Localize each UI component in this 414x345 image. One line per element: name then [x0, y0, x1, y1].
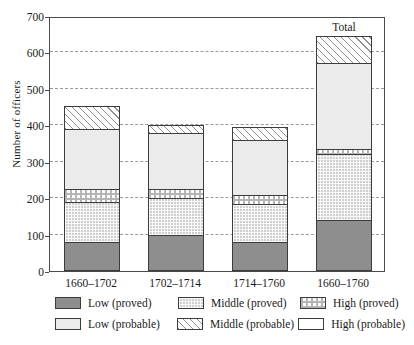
y-tick-label: 600 — [0, 47, 44, 59]
legend-label-high-probable: High (probable) — [331, 318, 405, 330]
bar-segment — [64, 129, 120, 189]
y-tick-label: 200 — [0, 193, 44, 205]
bar-segment — [232, 140, 288, 195]
plot-area: Total — [49, 17, 385, 272]
bar-segment — [316, 220, 372, 271]
legend-swatch-high-probable — [298, 318, 324, 330]
bar-segment — [232, 127, 288, 140]
bar-segment — [316, 154, 372, 220]
x-tick-label: 1714–1760 — [214, 277, 304, 289]
legend-row-probable: Low (probable) Middle (probable) High (p… — [55, 313, 405, 334]
bar-2[interactable] — [148, 125, 204, 271]
y-tick-label: 0 — [0, 266, 44, 278]
x-tick-label: 1660–1760 — [298, 277, 388, 289]
y-tick-label: 700 — [0, 11, 44, 23]
y-tick-label: 100 — [0, 230, 44, 242]
bar-segment — [64, 242, 120, 271]
legend-swatch-middle-probable — [177, 318, 203, 330]
legend-swatch-high-proved — [300, 297, 326, 309]
bar-segment — [64, 202, 120, 242]
y-tick-label: 300 — [0, 157, 44, 169]
bar-4[interactable]: Total — [316, 36, 372, 271]
legend-label-low-proved: Low (proved) — [88, 297, 152, 309]
y-tick-mark — [45, 272, 49, 273]
bar-segment — [148, 189, 204, 198]
legend-swatch-low-probable — [55, 318, 81, 330]
legend-item-middle-proved[interactable]: Middle (proved) — [178, 297, 300, 309]
legend-label-middle-proved: Middle (proved) — [211, 297, 287, 309]
bar-segment — [64, 189, 120, 202]
legend-label-high-proved: High (proved) — [333, 297, 398, 309]
bar-3[interactable] — [232, 127, 288, 271]
legend-swatch-middle-proved — [178, 297, 204, 309]
chart-figure: Number of officers 010020030040050060070… — [0, 0, 414, 345]
bar-segment — [316, 36, 372, 63]
legend-swatch-low-proved — [55, 297, 81, 309]
plot-inner: Total — [50, 18, 384, 271]
bar-segment — [316, 63, 372, 149]
bar-segment — [148, 133, 204, 189]
bar-1[interactable] — [64, 106, 120, 271]
bar-segment — [232, 204, 288, 242]
x-tick-label: 1702–1714 — [130, 277, 220, 289]
legend-label-low-probable: Low (probable) — [88, 318, 160, 330]
legend-item-low-proved[interactable]: Low (proved) — [55, 297, 178, 309]
bar-segment — [148, 235, 204, 271]
chart-legend: Low (proved) Middle (proved) High (prove… — [55, 292, 405, 334]
y-tick-label: 500 — [0, 84, 44, 96]
legend-item-middle-probable[interactable]: Middle (probable) — [177, 318, 298, 330]
bar-segment — [232, 195, 288, 204]
legend-item-high-proved[interactable]: High (proved) — [300, 297, 398, 309]
y-tick-label: 400 — [0, 120, 44, 132]
legend-item-low-probable[interactable]: Low (probable) — [55, 318, 177, 330]
x-tick-label: 1660–1702 — [46, 277, 136, 289]
bar-segment — [148, 125, 204, 132]
legend-item-high-probable[interactable]: High (probable) — [298, 318, 405, 330]
legend-label-middle-probable: Middle (probable) — [210, 318, 294, 330]
legend-row-proved: Low (proved) Middle (proved) High (prove… — [55, 292, 405, 313]
bar-segment — [148, 198, 204, 234]
bar-segment — [232, 242, 288, 271]
bar-segment — [316, 149, 372, 154]
bar-segment — [64, 106, 120, 129]
bar-annotation-total: Total — [309, 21, 379, 33]
